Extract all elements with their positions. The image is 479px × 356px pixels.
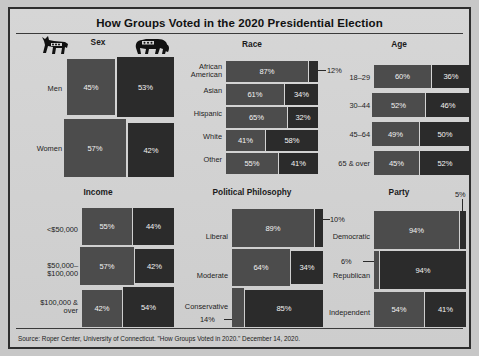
panel-title-political-philosophy: Political Philosophy — [178, 187, 326, 197]
bar-other-rep: 41% — [279, 153, 318, 174]
callout-line-african-american — [318, 70, 326, 71]
row-label-18-29: 18–29 — [328, 74, 370, 82]
panel-race: Race African American 87% 12% Asian 61% … — [182, 39, 322, 179]
bar-democratic-rep — [460, 211, 466, 249]
bar-hispanic-dem: 65% — [226, 107, 287, 128]
bar-45-64-rep: 50% — [420, 122, 470, 146]
bar-65-over-rep: 52% — [420, 151, 470, 175]
bar-women-rep: 42% — [128, 123, 174, 177]
panel-title-income: Income — [22, 187, 174, 197]
row-label-100k-over: $100,000 & over — [22, 299, 78, 316]
bar-republican-rep: 94% — [380, 251, 466, 289]
row-label-republican: Republican — [314, 272, 370, 280]
bar-democratic-dem: 94% — [374, 211, 459, 249]
row-label-under-50k: <$50,000 — [22, 226, 78, 234]
bar-30-44-rep: 46% — [426, 93, 470, 117]
bar-hispanic-rep: 32% — [288, 107, 318, 128]
panel-income: Income <$50,000 55% 44% $50,000– $100,00… — [22, 187, 174, 327]
row-label-independent: Independent — [310, 309, 370, 317]
callout-republican-dem: 6% — [341, 257, 352, 266]
source-note: Source: Roper Center, University of Conn… — [18, 335, 300, 342]
panel-title-sex: Sex — [22, 37, 174, 47]
row-label-conservative: Conservative — [178, 303, 228, 311]
bar-50k-100k-rep: 42% — [135, 249, 174, 283]
panel-political-philosophy: Political Philosophy Liberal 89% 10% Mod… — [178, 187, 326, 327]
panel-title-race: Race — [182, 39, 322, 49]
callout-conservative-dem: 14% — [200, 315, 215, 324]
chart-frame: How Groups Voted in the 2020 Presidentia… — [8, 7, 471, 349]
bar-white-dem: 41% — [226, 130, 265, 151]
panel-sex: Sex Men 45% 53% Women 57% 42% — [22, 37, 174, 177]
row-label-white: White — [182, 133, 222, 141]
bar-other-dem: 55% — [226, 153, 278, 174]
bar-conservative-dem — [232, 288, 244, 327]
bar-republican-dem — [374, 251, 379, 289]
row-label-women: Women — [22, 145, 62, 153]
row-label-liberal: Liberal — [178, 233, 228, 241]
bar-independent-dem: 54% — [374, 292, 424, 327]
panel-title-party: Party — [328, 187, 470, 197]
row-label-65-over: 65 & over — [328, 160, 370, 168]
row-label-men: Men — [22, 85, 62, 93]
row-label-30-44: 30–44 — [328, 102, 370, 110]
bar-women-dem: 57% — [64, 119, 126, 177]
row-label-african-american: African American — [182, 63, 222, 80]
bar-independent-rep: 41% — [425, 292, 466, 327]
row-label-45-64: 45–64 — [328, 131, 370, 139]
bar-liberal-dem: 89% — [232, 209, 314, 247]
row-label-other: Other — [182, 156, 222, 164]
panel-age: Age 18–29 60% 36% 30–44 52% 46% 45–64 49… — [328, 39, 470, 179]
bar-18-29-dem: 60% — [374, 65, 431, 88]
row-label-moderate: Moderate — [178, 272, 228, 280]
callout-democratic-rep: 5% — [455, 190, 466, 199]
bar-moderate-dem: 64% — [232, 249, 290, 286]
title-divider — [16, 33, 463, 34]
source-divider — [16, 328, 463, 329]
bar-under-50k-rep: 44% — [133, 208, 174, 245]
bar-african-american-dem: 87% — [226, 61, 308, 82]
bar-asian-dem: 61% — [226, 84, 284, 105]
callout-line-republican — [363, 261, 374, 262]
row-label-50k-100k: $50,000– $100,000 — [22, 262, 78, 279]
callout-line-democratic — [462, 199, 463, 211]
bar-100k-over-rep: 54% — [123, 287, 174, 327]
bar-100k-over-dem: 42% — [82, 290, 122, 327]
bar-65-over-dem: 45% — [374, 151, 419, 175]
bar-under-50k-dem: 55% — [82, 208, 132, 245]
bar-50k-100k-dem: 57% — [80, 247, 134, 285]
bar-men-rep: 53% — [117, 57, 174, 117]
chart-canvas: How Groups Voted in the 2020 Presidentia… — [10, 9, 469, 347]
row-label-asian: Asian — [182, 87, 222, 95]
row-label-hispanic: Hispanic — [182, 110, 222, 118]
bar-men-dem: 45% — [67, 59, 115, 115]
callout-line-conservative — [224, 319, 232, 320]
chart-page: How Groups Voted in the 2020 Presidentia… — [0, 0, 479, 356]
bar-45-64-dem: 49% — [372, 122, 419, 146]
panel-party: Party Democratic 94% 5% Republican 6% 94… — [328, 187, 470, 327]
bar-30-44-dem: 52% — [372, 93, 425, 117]
page-title: How Groups Voted in the 2020 Presidentia… — [10, 17, 469, 29]
bar-white-rep: 58% — [266, 130, 318, 151]
bar-african-american-rep — [309, 61, 318, 82]
row-label-democratic: Democratic — [314, 233, 370, 241]
bar-asian-rep: 34% — [285, 84, 318, 105]
bar-18-29-rep: 36% — [432, 65, 470, 88]
panel-title-age: Age — [328, 39, 470, 49]
